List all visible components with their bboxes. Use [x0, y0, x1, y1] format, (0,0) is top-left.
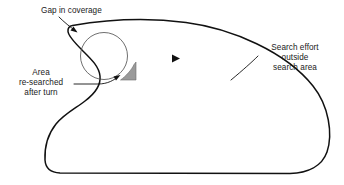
- label-search-effort-line-3: search area: [253, 63, 337, 73]
- researched-leader-line: [74, 77, 119, 85]
- label-search-effort-line-2: outside: [253, 53, 337, 63]
- label-area-re-searched-line-2: re-searched: [8, 78, 74, 88]
- label-gap-in-coverage-line-1: Gap in coverage: [41, 6, 102, 16]
- label-gap-in-coverage: Gap in coverage: [41, 6, 102, 16]
- label-search-effort-line-1: Search effort: [253, 43, 337, 53]
- direction-arrow-icon: [172, 55, 180, 63]
- label-area-re-searched-line-3: after turn: [8, 88, 74, 98]
- label-area-re-searched-line-1: Area: [8, 68, 74, 78]
- search-pattern-diagram: Gap in coverage Area re-searched after t…: [0, 0, 344, 185]
- label-search-effort-outside-search-area: Search effort outside search area: [253, 43, 337, 73]
- label-area-re-searched-after-turn: Area re-searched after turn: [8, 68, 74, 98]
- researched-wedge-shape: [121, 62, 137, 80]
